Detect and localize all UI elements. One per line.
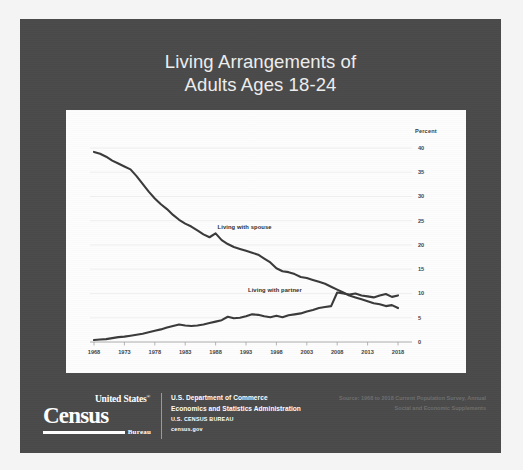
agency-website[interactable]: census.gov [171, 424, 301, 434]
title-line-1: Living Arrangements of [165, 51, 356, 72]
title-line-2: Adults Ages 18-24 [21, 73, 500, 96]
logo-bureau-row: Bureau [43, 428, 151, 436]
y-axis-tick-label: 35 [418, 169, 424, 175]
y-axis-tick-label: 15 [418, 266, 424, 272]
logo-bureau-text: Bureau [128, 428, 151, 436]
registered-mark-icon: ® [146, 394, 150, 399]
y-axis-tick-label: 30 [418, 193, 424, 199]
y-axis-tick-label: 0 [418, 339, 421, 345]
x-axis-tick-label: 1998 [261, 349, 291, 355]
screenshot-page: Living Arrangements of Adults Ages 18-24… [0, 0, 523, 470]
logo-bar [43, 431, 125, 434]
x-axis-tick-label: 2003 [292, 349, 322, 355]
line-chart [66, 110, 466, 373]
x-axis-tick-label: 1988 [201, 349, 231, 355]
x-axis-tick-label: 2018 [383, 349, 413, 355]
agency-line-1: U.S. Department of Commerce [171, 393, 301, 404]
source-line-1: Source: 1968 to 2018 Current Population … [311, 393, 486, 403]
agency-line-3: U.S. CENSUS BUREAU [171, 414, 301, 424]
census-slide: Living Arrangements of Adults Ages 18-24… [21, 20, 500, 452]
x-axis-tick-label: 1983 [170, 349, 200, 355]
source-note: Source: 1968 to 2018 Current Population … [311, 393, 486, 413]
series-line [94, 293, 398, 341]
chart-panel: Percent051015202530354019681973197819831… [66, 110, 466, 373]
y-axis-label: Percent [415, 128, 437, 134]
page-title: Living Arrangements of Adults Ages 18-24 [21, 50, 500, 96]
slide-footer: United States® Census Bureau U.S. Depart… [21, 383, 500, 452]
y-axis-tick-label: 40 [418, 145, 424, 151]
footer-divider [161, 393, 162, 439]
source-line-2: Social and Economic Supplements [311, 403, 486, 413]
x-axis-tick-label: 2008 [322, 349, 352, 355]
y-axis-tick-label: 25 [418, 218, 424, 224]
x-axis-tick-label: 1978 [140, 349, 170, 355]
x-axis-tick-label: 1993 [231, 349, 261, 355]
x-axis-tick-label: 2013 [353, 349, 383, 355]
series-annotation: Living with spouse [218, 224, 272, 230]
logo-census-text: Census [43, 405, 151, 427]
y-axis-tick-label: 10 [418, 290, 424, 296]
x-axis-tick-label: 1973 [109, 349, 139, 355]
y-axis-tick-label: 5 [418, 315, 421, 321]
agency-line-2: Economics and Statistics Administration [171, 404, 301, 415]
x-axis-tick-label: 1968 [79, 349, 109, 355]
y-axis-tick-label: 20 [418, 242, 424, 248]
series-annotation: Living with partner [248, 287, 302, 293]
census-bureau-logo: United States® Census Bureau [43, 391, 151, 436]
agency-block: U.S. Department of Commerce Economics an… [171, 393, 301, 434]
